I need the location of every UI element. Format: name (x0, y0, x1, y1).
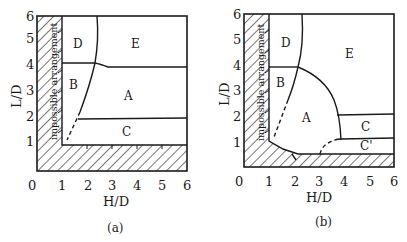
y-tick-2: 2 (26, 109, 34, 124)
x-tick-0: 0 (235, 174, 243, 189)
x-tick-4: 4 (133, 178, 141, 193)
impossible-boundary (269, 14, 394, 154)
y-tick-3: 3 (26, 83, 34, 98)
figure-canvas: D E B A C impossible arrangement 1 2 3 4… (0, 0, 407, 242)
x-tick-6: 6 (183, 178, 191, 193)
y-tick-3: 3 (233, 83, 241, 98)
region-label-c-prime: C' (360, 139, 372, 153)
x-tick-5: 5 (366, 174, 374, 189)
y-tick-4: 4 (233, 58, 241, 73)
y-axis-label: L/D (9, 85, 24, 108)
boundary-a-c (78, 118, 187, 119)
y-tick-6: 6 (233, 7, 241, 22)
y-tick-1: 1 (233, 135, 241, 150)
boundary-curve-dashed (274, 100, 288, 137)
boundary-curve-upper (80, 16, 98, 112)
panel-a: D E B A C impossible arrangement 1 2 3 4… (9, 9, 191, 235)
panel-caption: (b) (315, 215, 332, 229)
x-tick-3: 3 (108, 178, 116, 193)
region-label-e: E (345, 47, 354, 61)
x-tick-4: 4 (340, 174, 348, 189)
boundary-bd-ae (62, 63, 187, 67)
region-label-d: D (281, 36, 291, 50)
x-tick-1: 1 (265, 174, 273, 189)
y-tick-4: 4 (26, 57, 34, 72)
region-label-c: C (122, 125, 131, 139)
boundary-e-c (337, 114, 394, 115)
x-tick-0: 0 (28, 178, 36, 193)
region-label-e: E (131, 37, 140, 51)
region-label-b: B (69, 78, 78, 92)
x-tick-5: 5 (158, 178, 166, 193)
x-tick-3: 3 (315, 174, 323, 189)
region-label-d: D (73, 37, 83, 51)
impossible-arrangement-label: impossible arrangement (48, 23, 59, 140)
x-tick-2: 2 (84, 178, 92, 193)
x-tick-2: 2 (291, 174, 299, 189)
y-tick-2: 2 (233, 109, 241, 124)
region-label-b: B (276, 76, 285, 90)
impossible-arrangement-label: impossible arrangement (255, 24, 266, 141)
x-tick-1: 1 (58, 178, 66, 193)
panel-caption: (a) (107, 221, 124, 235)
panel-b: D E B A C C' impossible arrangement 1 2 … (217, 7, 398, 229)
y-tick-5: 5 (233, 32, 241, 47)
boundary-curve-upper (288, 14, 303, 100)
y-tick-1: 1 (26, 134, 34, 149)
x-axis-label: H/D (306, 190, 332, 205)
x-axis-label: H/D (103, 194, 129, 209)
region-label-a: A (123, 89, 133, 103)
y-axis-label: L/D (217, 83, 232, 106)
x-tick-6: 6 (390, 174, 398, 189)
region-label-c: C (361, 120, 370, 134)
boundary-curve-dashed (67, 112, 80, 140)
boundary-a-e-arc (298, 67, 341, 140)
y-tick-5: 5 (26, 31, 34, 46)
boundary-a-cprime-dashed (320, 140, 335, 154)
y-tick-6: 6 (26, 9, 34, 24)
region-label-a: A (301, 111, 311, 125)
